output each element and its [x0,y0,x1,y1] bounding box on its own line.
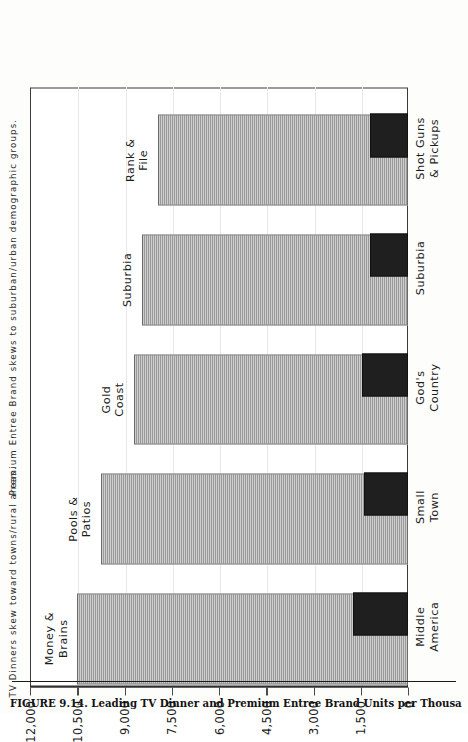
bar-tv-dinner[interactable] [362,353,408,396]
category-label-line: America [428,566,442,686]
bar-annotation-label: Pools &Patios [67,473,94,564]
bar-group: Rank &File [30,88,408,208]
figure-caption-number: FIGURE 9.14. [10,697,88,709]
category-label-line: & Pickups [428,88,442,208]
category-axis-labels: MiddleAmericaSmallTownGod'sCountrySuburb… [414,88,454,686]
bar-tv-dinner[interactable] [364,472,408,515]
bar-group: GoldCoast [30,327,408,447]
bar-premium-entree[interactable] [142,234,408,325]
axis-tick: 3,000 [314,687,315,695]
axis-tick: 9,000 [125,687,126,695]
caption-divider [12,681,456,682]
bar-tv-dinner[interactable] [370,233,408,276]
figure-caption: FIGURE 9.14. Leading TV Dinner and Premi… [10,697,462,709]
axis-tick: 0 [408,687,409,695]
annotation-tv-dinners: TV Dinners skew toward towns/rural areas… [8,466,18,697]
bar-annotation-line: File [137,114,151,205]
axis-tick: 7,500 [172,687,173,695]
category-label-line: Town [428,447,442,567]
axis-tick: 4,500 [266,687,267,695]
bar-series-container: Money &BrainsPools &PatiosGoldCoastSubur… [30,88,408,686]
bar-annotation-label: Suburbia [121,234,135,325]
bar-annotation-line: Patios [80,473,94,564]
category-label-line: God's [414,327,428,447]
category-label-line: Suburbia [414,208,428,328]
category-label-line: Country [428,327,442,447]
category-label: Suburbia [414,208,428,328]
chart-annotations: TV Dinners skew toward towns/rural areas… [6,0,28,713]
axis-tick: 1,500 [361,687,362,695]
bar-annotation-label: Rank &File [124,114,151,205]
category-label: God'sCountry [414,327,441,447]
category-label: Shot Guns& Pickups [414,88,441,208]
bar-annotation-line: Coast [113,354,127,445]
category-label-line: Small [414,447,428,567]
bar-annotation-line: Rank & [124,114,138,205]
bar-group: Pools &Patios [30,447,408,567]
axis-tick: 12,000 [30,687,31,695]
axis-tick: 10,500 [77,687,78,695]
figure-caption-text: Leading TV Dinner and Premium Entree Bra… [91,697,462,709]
bar-annotation-line: Gold [100,354,114,445]
bar-annotation-line: Money & [43,593,57,684]
bar-group: Suburbia [30,208,408,328]
bar-tv-dinner[interactable] [353,592,408,635]
annotation-premium-entree: Premium Entree Brand skews to suburban/u… [8,118,18,495]
bar-annotation-label: Money &Brains [43,593,70,684]
category-label-line: Middle [414,566,428,686]
bar-annotation-line: Pools & [67,473,81,564]
category-label: SmallTown [414,447,441,567]
category-label: MiddleAmerica [414,566,441,686]
bar-premium-entree[interactable] [101,473,408,564]
bar-group: Money &Brains [30,566,408,686]
category-label-line: Shot Guns [414,88,428,208]
axis-tick: 6,000 [219,687,220,695]
bar-annotation-label: GoldCoast [100,354,127,445]
bar-annotation-line: Brains [57,593,71,684]
bar-annotation-line: Suburbia [121,234,135,325]
bar-tv-dinner[interactable] [370,113,408,156]
